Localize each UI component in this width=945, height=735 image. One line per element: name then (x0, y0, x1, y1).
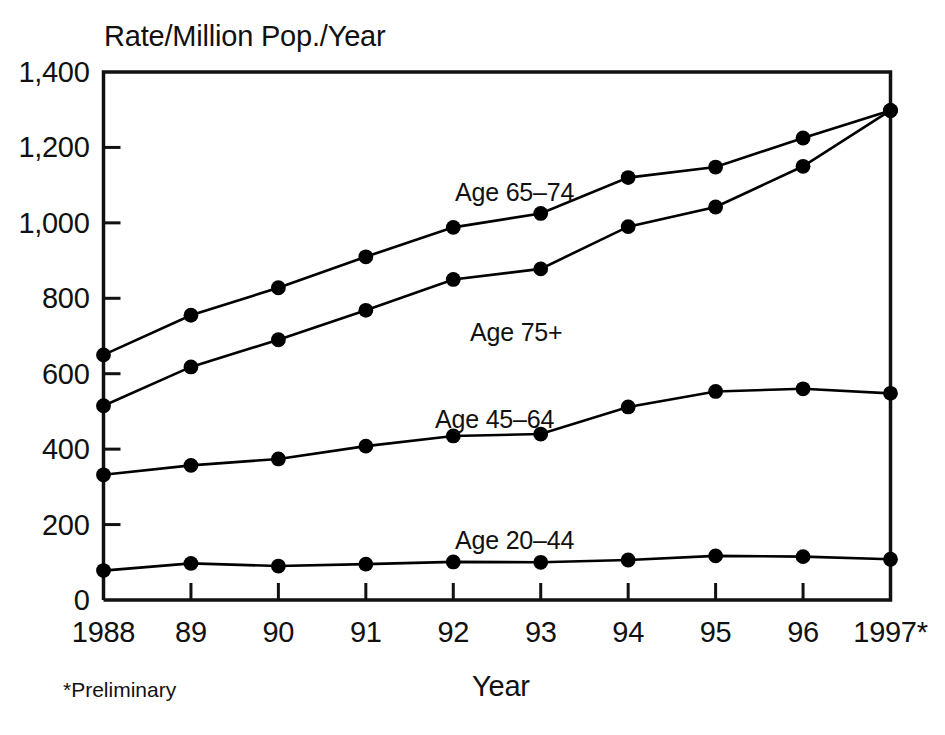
data-point-marker (621, 219, 636, 234)
data-point-marker (708, 200, 723, 215)
x-tick-label: 93 (525, 616, 557, 649)
data-point-marker (184, 458, 199, 473)
series-inline-label: Age 65–74 (455, 178, 574, 207)
x-tick-label: 95 (700, 616, 732, 649)
data-point-marker (796, 549, 811, 564)
data-point-marker (621, 553, 636, 568)
x-tick-label: 91 (350, 616, 382, 649)
data-point-marker (271, 559, 286, 574)
data-point-marker (446, 220, 461, 235)
data-point-marker (358, 557, 373, 572)
data-point-marker (883, 386, 898, 401)
x-tick-label: 1997* (853, 616, 927, 649)
data-point-marker (96, 347, 111, 362)
data-point-marker (796, 381, 811, 396)
chart-figure: Rate/Million Pop./Year 02004006008001,00… (0, 0, 945, 735)
data-point-marker (708, 160, 723, 175)
y-axis-title: Rate/Million Pop./Year (104, 20, 385, 53)
footnote-preliminary: *Preliminary (63, 678, 176, 702)
series-inline-label: Age 45–64 (435, 405, 554, 434)
data-point-marker (883, 103, 898, 118)
y-tick-label: 600 (42, 357, 90, 390)
data-point-marker (358, 249, 373, 264)
series-line (104, 556, 891, 571)
data-point-marker (446, 272, 461, 287)
data-point-marker (708, 548, 723, 563)
y-tick-label: 400 (42, 433, 90, 466)
x-axis-ticks (191, 583, 803, 600)
series-line (104, 110, 891, 405)
x-tick-label: 89 (175, 616, 207, 649)
data-point-marker (358, 439, 373, 454)
y-tick-label: 0 (74, 584, 90, 617)
data-point-marker (708, 384, 723, 399)
x-tick-label: 94 (612, 616, 644, 649)
x-tick-label: 96 (787, 616, 819, 649)
y-tick-label: 1,200 (18, 131, 89, 164)
data-point-marker (796, 159, 811, 174)
y-tick-label: 1,000 (18, 206, 89, 239)
data-point-marker (184, 556, 199, 571)
x-tick-label: 92 (437, 616, 469, 649)
x-tick-label: 90 (263, 616, 295, 649)
x-axis-title: Year (472, 670, 530, 703)
data-point-marker (796, 131, 811, 146)
data-point-marker (96, 398, 111, 413)
series-inline-label: Age 20–44 (455, 526, 574, 555)
data-point-marker (533, 555, 548, 570)
y-tick-label: 1,400 (18, 56, 89, 89)
data-point-marker (271, 452, 286, 467)
data-point-marker (184, 360, 199, 375)
data-point-marker (533, 206, 548, 221)
data-point-marker (621, 400, 636, 415)
data-point-marker (621, 170, 636, 185)
data-point-marker (271, 280, 286, 295)
series-inline-label: Age 75+ (470, 318, 562, 347)
data-point-marker (96, 563, 111, 578)
data-point-marker (271, 332, 286, 347)
x-tick-label: 1988 (72, 616, 135, 649)
data-point-marker (533, 261, 548, 276)
y-tick-label: 200 (42, 508, 90, 541)
y-tick-label: 800 (42, 282, 90, 315)
data-point-marker (358, 303, 373, 318)
data-point-marker (446, 555, 461, 570)
caption-clipped-strip (0, 722, 945, 735)
data-point-marker (184, 308, 199, 323)
data-point-marker (883, 552, 898, 567)
data-point-marker (96, 467, 111, 482)
